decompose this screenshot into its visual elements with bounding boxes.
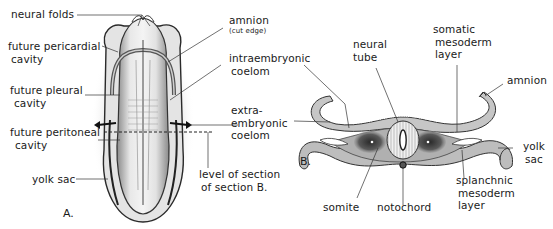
- label-future-pleural-cavity: future pleural cavity: [10, 84, 83, 109]
- embryo-figure: neural folds future pericardial cavity f…: [0, 0, 553, 229]
- label-intraembryonic-coelom: intraembryonic coelom: [229, 52, 311, 77]
- panel-a-letter: A.: [63, 207, 74, 220]
- panel-b-letter: B.: [300, 155, 311, 168]
- label-neural-tube: neural tube: [353, 38, 387, 63]
- label-future-pericardial-cavity: future pericardial cavity: [8, 40, 100, 65]
- label-amnion-a: amnion (cut edge): [229, 14, 269, 36]
- label-amnion-b: amnion: [507, 74, 547, 87]
- label-extraembryonic-coelom: extra- embryonic coelom: [231, 104, 288, 142]
- label-splanchnic-mesoderm-layer: splanchnic mesoderm layer: [456, 174, 515, 212]
- label-somite: somite: [323, 201, 359, 214]
- label-yolk-sac-b: yolk sac: [523, 140, 545, 165]
- label-somatic-mesoderm-layer: somatic mesoderm layer: [433, 23, 492, 61]
- panel-b-section: [299, 92, 512, 169]
- label-level-of-section: level of section of section B.: [199, 168, 280, 193]
- label-neural-folds: neural folds: [11, 8, 74, 21]
- label-notochord: notochord: [377, 201, 431, 214]
- label-yolk-sac-a: yolk sac: [32, 173, 75, 186]
- label-future-peritoneal-cavity: future peritoneal cavity: [10, 126, 100, 151]
- panel-a-embryo: [91, 16, 212, 229]
